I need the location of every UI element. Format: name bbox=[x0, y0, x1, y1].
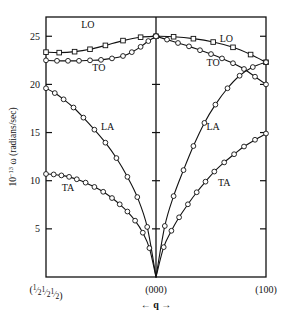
marker-TA bbox=[194, 190, 199, 195]
marker-TO bbox=[121, 54, 126, 59]
branch-label-TO-right: TO bbox=[207, 57, 220, 68]
marker-TO bbox=[264, 82, 269, 87]
marker-TA bbox=[147, 246, 152, 251]
marker-LO bbox=[88, 47, 93, 52]
marker-LO bbox=[231, 45, 236, 50]
marker-LA bbox=[114, 156, 119, 161]
marker-TA bbox=[222, 160, 227, 165]
marker-TA bbox=[264, 131, 269, 136]
marker-TA bbox=[253, 137, 258, 142]
marker-LA bbox=[103, 140, 108, 145]
marker-TO bbox=[129, 50, 134, 55]
marker-TA bbox=[101, 189, 106, 194]
marker-LO bbox=[248, 52, 253, 57]
marker-LA bbox=[92, 127, 97, 132]
branch-label-TO-left: TO bbox=[92, 62, 105, 73]
marker-TA bbox=[83, 180, 88, 185]
marker-TA bbox=[186, 202, 191, 207]
marker-LA bbox=[52, 91, 57, 96]
marker-LA bbox=[225, 86, 230, 91]
x-tick-label-1: (000) bbox=[145, 284, 167, 296]
marker-LO bbox=[57, 50, 62, 55]
series-line-LA-right bbox=[156, 62, 266, 277]
marker-TA bbox=[125, 209, 130, 214]
y-tick-label-25: 25 bbox=[30, 31, 40, 42]
marker-LA bbox=[162, 224, 167, 229]
marker-LO bbox=[44, 50, 49, 55]
marker-LO bbox=[103, 43, 108, 48]
marker-TO bbox=[146, 39, 151, 44]
marker-LO bbox=[138, 35, 143, 40]
marker-TO bbox=[110, 56, 115, 61]
marker-TO bbox=[55, 58, 60, 63]
marker-TA bbox=[51, 172, 56, 177]
y-axis-title-group: 10−13 ω (radians/sec) bbox=[7, 107, 20, 186]
marker-LA bbox=[145, 225, 150, 230]
marker-LA bbox=[171, 194, 176, 199]
marker-LA bbox=[237, 73, 242, 78]
marker-TA bbox=[242, 144, 247, 149]
marker-LA bbox=[44, 86, 49, 91]
marker-TA bbox=[161, 245, 166, 250]
marker-TA bbox=[59, 173, 64, 178]
marker-TA bbox=[67, 174, 72, 179]
marker-LO bbox=[211, 40, 216, 45]
marker-LO bbox=[171, 34, 176, 39]
marker-TA bbox=[140, 230, 145, 235]
marker-LO bbox=[121, 38, 126, 43]
branch-label-TA-left: TA bbox=[62, 182, 75, 193]
marker-TO bbox=[66, 58, 71, 63]
y-tick-label-5: 5 bbox=[35, 223, 40, 234]
marker-TO bbox=[44, 58, 49, 63]
marker-LA bbox=[81, 115, 86, 120]
x-tick-label-0: (1⁄21⁄21⁄2) bbox=[30, 283, 63, 302]
marker-LA bbox=[264, 60, 269, 65]
marker-TO bbox=[231, 61, 236, 66]
series-line-TA-right bbox=[156, 134, 266, 277]
y-axis-title: 10−13 ω (radians/sec) bbox=[7, 107, 20, 186]
branch-label-LO-left: LO bbox=[81, 19, 94, 30]
branch-label-TA-right: TA bbox=[218, 177, 231, 188]
marker-LO bbox=[191, 36, 196, 41]
x-axis-title: ← q → bbox=[141, 299, 172, 310]
y-tick-label-20: 20 bbox=[30, 79, 40, 90]
marker-TA bbox=[44, 172, 49, 177]
marker-TO bbox=[198, 48, 203, 53]
marker-TA bbox=[133, 218, 138, 223]
marker-TA bbox=[232, 152, 237, 157]
marker-LA bbox=[181, 168, 186, 173]
marker-gamma-optical bbox=[153, 34, 158, 39]
marker-LA bbox=[61, 97, 66, 102]
marker-TO bbox=[220, 56, 225, 61]
marker-TA bbox=[117, 202, 122, 207]
marker-TO bbox=[77, 58, 82, 63]
marker-LA bbox=[125, 174, 130, 179]
marker-TA bbox=[169, 228, 174, 233]
phonon-dispersion-figure: 510152025LOTOLATALOTOLATA(1⁄21⁄21⁄2)(000… bbox=[0, 0, 290, 324]
marker-LA bbox=[213, 102, 218, 107]
marker-TA bbox=[74, 177, 79, 182]
branch-label-LA-left: LA bbox=[101, 121, 115, 132]
marker-LO bbox=[72, 49, 77, 54]
marker-LA bbox=[135, 195, 140, 200]
marker-LA bbox=[250, 65, 255, 70]
marker-TA bbox=[92, 185, 97, 190]
marker-TO bbox=[176, 41, 181, 46]
marker-LA bbox=[71, 105, 76, 110]
marker-TO bbox=[209, 52, 214, 57]
branch-label-LO-right: LO bbox=[220, 33, 233, 44]
y-tick-label-15: 15 bbox=[30, 127, 40, 138]
y-tick-label-10: 10 bbox=[30, 175, 40, 186]
marker-TO bbox=[187, 44, 192, 49]
marker-TA bbox=[110, 196, 115, 201]
marker-TA bbox=[177, 215, 182, 220]
marker-TA bbox=[203, 179, 208, 184]
dispersion-chart: 510152025LOTOLATALOTOLATA(1⁄21⁄21⁄2)(000… bbox=[0, 0, 290, 324]
marker-TO bbox=[165, 37, 170, 42]
marker-TO bbox=[138, 44, 143, 49]
x-tick-label-2: (100) bbox=[255, 284, 277, 296]
marker-TA bbox=[212, 169, 217, 174]
marker-TO bbox=[253, 74, 258, 79]
branch-label-LA-right: LA bbox=[207, 121, 221, 132]
marker-LA bbox=[191, 144, 196, 149]
